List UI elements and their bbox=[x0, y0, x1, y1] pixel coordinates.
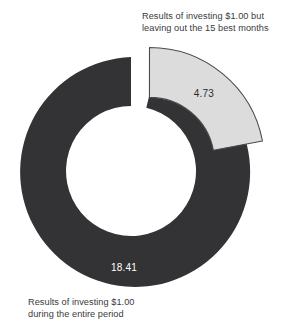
donut-chart-svg: 4.73 18.41 bbox=[0, 0, 296, 335]
slice-value-label-light: 4.73 bbox=[194, 88, 215, 99]
annotation-missing-best-months: Results of investing $1.00 but leaving o… bbox=[142, 10, 296, 34]
slice-value-label-dark: 18.41 bbox=[111, 262, 137, 273]
annotation-entire-period: Results of investing $1.00 during the en… bbox=[28, 296, 208, 320]
donut-chart: 4.73 18.41 Results of investing $1.00 bu… bbox=[0, 0, 296, 335]
